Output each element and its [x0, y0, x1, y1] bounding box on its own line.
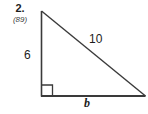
right-triangle-diagram	[0, 0, 148, 114]
problem-figure: 2. (89) 6 10 b	[0, 0, 148, 114]
label-horizontal-leg: b	[84, 97, 90, 109]
right-angle-marker-icon	[42, 85, 53, 96]
label-vertical-leg: 6	[24, 49, 31, 61]
triangle-hypotenuse	[42, 11, 146, 96]
label-hypotenuse: 10	[89, 33, 102, 45]
